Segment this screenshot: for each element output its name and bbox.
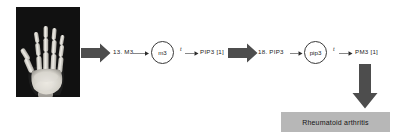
connector-arrow-icon [133,50,150,57]
output-label-pm3: PM3 [1] [355,49,378,55]
connector-arrow-icon [185,50,199,57]
edge-label-1: t [180,46,182,52]
hand-xray-graphic [16,7,80,97]
node-m3-label: m3 [158,49,167,56]
diagnosis-box: Rheumatoid arthritis [281,112,390,132]
node-pip3: pip3 [304,41,327,64]
feature-label-pip3: 18. PIP3 [258,49,284,55]
output-label-pip3: PIP3 [1] [200,49,224,55]
block-arrow-down-icon [352,64,378,109]
connector-arrow-icon [290,50,303,57]
block-arrow-right-icon [228,43,258,63]
node-m3: m3 [151,41,174,64]
hand-xray-image [16,7,80,97]
block-arrow-right-icon [81,43,111,63]
node-pip3-label: pip3 [310,49,322,56]
feature-label-m3: 13. M3 [113,49,133,55]
connector-arrow-icon [339,50,353,57]
edge-label-2: t [333,46,335,52]
diagnosis-label: Rheumatoid arthritis [302,119,369,126]
